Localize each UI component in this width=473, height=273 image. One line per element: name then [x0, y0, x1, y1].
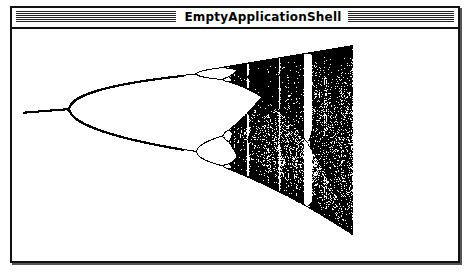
bifurcation-plot: [12, 29, 458, 261]
window-content: [12, 29, 458, 261]
title-bar-stripes-right: [348, 11, 454, 23]
title-bar-stripes-left: [16, 11, 176, 23]
application-window: EmptyApplicationShell: [10, 6, 460, 263]
title-bar[interactable]: EmptyApplicationShell: [12, 8, 458, 29]
window-title: EmptyApplicationShell: [180, 9, 346, 25]
